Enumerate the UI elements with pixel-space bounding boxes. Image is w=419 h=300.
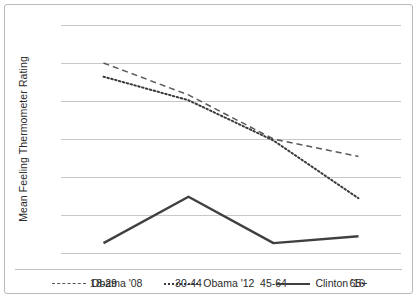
- y-axis-title-label: Mean Feeling Thermometer Rating: [17, 56, 29, 222]
- series-line-obama-08: [104, 63, 359, 156]
- plot-area: 40455055606570 18-2930-4445-6465+: [61, 25, 401, 253]
- legend-swatch-clinton-16: [276, 279, 310, 287]
- legend-swatch-obama-12: [164, 279, 198, 287]
- legend-item-obama-08[interactable]: Obama '08: [52, 277, 142, 289]
- series-container: [61, 25, 401, 253]
- gridline: [61, 253, 401, 254]
- chart-legend: Obama '08Obama '12Clinton '16: [5, 273, 412, 293]
- legend-label-clinton-16: Clinton '16: [315, 277, 364, 289]
- legend-item-obama-12[interactable]: Obama '12: [164, 277, 254, 289]
- legend-divider: [15, 269, 402, 270]
- chart-frame: Mean Feeling Thermometer Rating 40455055…: [4, 4, 413, 294]
- series-line-obama-12: [104, 77, 359, 199]
- legend-swatch-obama-08: [52, 279, 86, 287]
- legend-label-obama-12: Obama '12: [203, 277, 254, 289]
- y-axis-title: Mean Feeling Thermometer Rating: [15, 27, 31, 251]
- legend-label-obama-08: Obama '08: [91, 277, 142, 289]
- series-svg: [61, 25, 401, 253]
- series-line-clinton-16: [104, 197, 359, 243]
- legend-item-clinton-16[interactable]: Clinton '16: [276, 277, 364, 289]
